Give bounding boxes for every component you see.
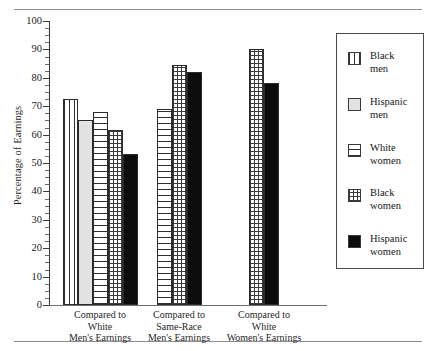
x-axis-group-label-line: Women's Earnings <box>205 332 323 344</box>
figure-canvas: Percentage of Earnings 01020304050607080… <box>0 0 436 351</box>
legend-swatch <box>348 189 361 202</box>
y-tick-label: 20 <box>18 243 42 253</box>
bar-group <box>157 21 202 305</box>
page-rule-top <box>14 9 422 10</box>
legend-item: Hispanicwomen <box>348 233 407 258</box>
legend-swatch <box>348 144 361 157</box>
legend-item: Whitewomen <box>348 142 401 167</box>
y-tick-label: 50 <box>18 158 42 168</box>
y-tick-label: 80 <box>18 73 42 83</box>
legend-label: Hispanicmen <box>370 96 407 121</box>
legend-item: Hispanicmen <box>348 96 407 121</box>
bar-group <box>249 21 279 305</box>
legend-label-line: Hispanic <box>370 96 407 109</box>
x-axis-group-label-line: Compared to <box>205 309 323 321</box>
y-tick-label: 40 <box>18 186 42 196</box>
y-tick-label: 30 <box>18 215 42 225</box>
x-axis-group-label-line: White <box>205 321 323 333</box>
legend-label-line: Black <box>370 50 395 63</box>
legend-label-line: Black <box>370 187 401 200</box>
legend-label-line: men <box>370 63 395 76</box>
bar <box>157 109 172 305</box>
legend-label-line: White <box>370 142 401 155</box>
bar <box>187 72 202 305</box>
legend-swatch <box>348 52 361 65</box>
bar <box>93 112 108 305</box>
legend-label: Blackmen <box>370 50 395 75</box>
bar-group <box>63 21 138 305</box>
y-tick-label: 100 <box>18 16 42 26</box>
legend-label-line: Hispanic <box>370 233 407 246</box>
y-tick-label: 90 <box>18 44 42 54</box>
y-axis-tick-labels: 0102030405060708090100 <box>10 0 42 351</box>
y-tick-label: 60 <box>18 130 42 140</box>
legend-label-line: women <box>370 246 407 259</box>
legend-label-line: women <box>370 155 401 168</box>
bar <box>63 99 78 305</box>
x-axis-line <box>49 305 327 306</box>
y-tick-label: 70 <box>18 101 42 111</box>
plot-area <box>49 21 327 305</box>
x-axis-group-label: Compared toWhiteWomen's Earnings <box>205 309 323 344</box>
legend-swatch <box>348 98 361 111</box>
legend-label-line: women <box>370 200 401 213</box>
y-tick-label: 0 <box>18 300 42 310</box>
bar <box>172 65 187 305</box>
legend-label: Hispanicwomen <box>370 233 407 258</box>
bar <box>123 154 138 305</box>
bar <box>78 120 93 305</box>
bar <box>249 49 264 305</box>
legend-label-line: men <box>370 109 407 122</box>
legend-label: Whitewomen <box>370 142 401 167</box>
y-tick-label: 10 <box>18 272 42 282</box>
legend-item: Blackmen <box>348 50 395 75</box>
legend-label: Blackwomen <box>370 187 401 212</box>
legend-item: Blackwomen <box>348 187 401 212</box>
legend-swatch <box>348 235 361 248</box>
chart-legend: BlackmenHispanicmenWhitewomenBlackwomenH… <box>336 33 424 269</box>
bar <box>108 130 123 305</box>
bar <box>264 83 279 305</box>
